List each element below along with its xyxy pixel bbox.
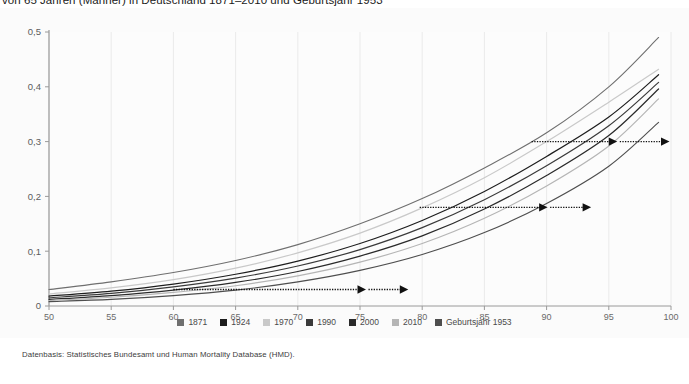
legend-item[interactable]: 1970 [263,317,293,327]
series-line [49,122,659,301]
y-tick-label: 0,2 [28,191,41,202]
series-line [49,89,659,299]
series-line [49,69,659,294]
y-tick-label: 0,4 [28,81,41,92]
legend-item-label: 2010 [403,317,422,327]
legend-item[interactable]: 1871 [177,317,207,327]
legend-swatch-icon [177,319,184,326]
legend-item-label: 1970 [274,317,293,327]
chart-panel: 00,10,20,30,40,550556065707580859095100 [0,8,689,338]
chart-title-container: von 65 Jahren (Männer) in Deutschland 18… [0,0,689,8]
y-tick-label: 0 [36,300,41,311]
y-tick-label: 0,5 [28,26,41,37]
legend-item[interactable]: 2000 [349,317,379,327]
legend-item-label: Geburtsjahr 1953 [446,317,512,327]
line-chart: 00,10,20,30,40,550556065707580859095100 [0,8,689,338]
y-tick-label: 0,3 [28,136,41,147]
y-tick-label: 0,1 [28,246,41,257]
legend-item[interactable]: 2010 [392,317,422,327]
page-title: von 65 Jahren (Männer) in Deutschland 18… [0,0,689,8]
legend-swatch-icon [220,319,227,326]
data-source-note: Datenbasis: Statistisches Bundesamt und … [22,350,295,359]
legend-swatch-icon [392,319,399,326]
legend-swatch-icon [263,319,270,326]
footer-band [0,338,689,384]
arrowhead-icon [583,203,592,211]
legend-swatch-icon [435,319,442,326]
legend-swatch-icon [306,319,313,326]
legend-item-label: 1871 [188,317,207,327]
series-line [49,75,659,296]
chart-legend: 187119241970199020002010Geburtsjahr 1953 [0,314,689,330]
legend-item-label: 1924 [231,317,250,327]
legend-item[interactable]: Geburtsjahr 1953 [435,317,512,327]
arrowhead-icon [609,137,618,145]
legend-swatch-icon [349,319,356,326]
legend-item[interactable]: 1990 [306,317,336,327]
arrowhead-icon [661,137,670,145]
legend-item[interactable]: 1924 [220,317,250,327]
legend-item-label: 1990 [317,317,336,327]
arrowhead-icon [357,285,366,293]
series-line [49,82,659,297]
chart-page: von 65 Jahren (Männer) in Deutschland 18… [0,0,689,384]
arrowhead-icon [400,285,409,293]
legend-item-label: 2000 [360,317,379,327]
